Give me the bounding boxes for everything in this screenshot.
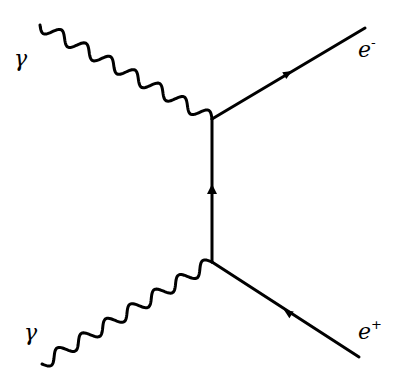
photon-lower-line: [42, 260, 212, 366]
photon-lower-label: γ: [24, 322, 37, 344]
photon-upper-line: [40, 25, 212, 119]
feynman-diagram: [0, 0, 400, 386]
propagator-arrow-icon: [207, 184, 217, 194]
electron-label: e-: [358, 38, 376, 61]
photon-upper-label: γ: [14, 48, 27, 70]
positron-label: e+: [358, 320, 382, 343]
positron-line: [212, 262, 359, 357]
